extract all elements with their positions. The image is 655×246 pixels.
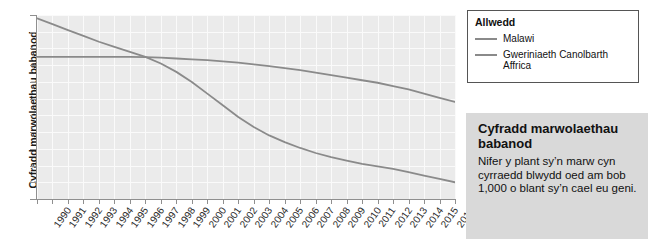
x-tick-mark bbox=[207, 199, 208, 204]
y-tick-mark bbox=[30, 32, 36, 33]
x-tick-mark bbox=[99, 199, 100, 204]
x-tick-mark bbox=[130, 199, 131, 204]
x-tick-mark bbox=[362, 199, 363, 204]
legend-line-swatch-icon bbox=[475, 54, 497, 56]
x-tick-mark bbox=[409, 199, 410, 204]
x-tick-mark bbox=[52, 199, 53, 204]
definition-body: Nifer y plant sy’n marw cyn cyrraedd blw… bbox=[478, 155, 638, 196]
line-chart: Cyfradd marwolaethau babanod 30405060708… bbox=[0, 0, 460, 246]
x-tick-mark bbox=[285, 199, 286, 204]
x-tick-mark bbox=[254, 199, 255, 204]
y-tick-mark bbox=[30, 65, 36, 66]
x-tick-mark bbox=[331, 199, 332, 204]
legend-label: Malawi bbox=[503, 33, 534, 45]
x-tick-mark bbox=[393, 199, 394, 204]
x-tick-mark bbox=[440, 199, 441, 204]
x-tick-mark bbox=[114, 199, 115, 204]
x-tick-mark bbox=[455, 199, 456, 204]
y-tick-mark bbox=[30, 182, 36, 183]
x-tick-mark bbox=[161, 199, 162, 204]
x-tick-mark bbox=[83, 199, 84, 204]
legend-box: Allwedd Malawi Gweriniaeth Canolbarth Af… bbox=[467, 10, 639, 83]
y-tick-mark bbox=[30, 48, 36, 49]
y-tick-mark bbox=[30, 132, 36, 133]
chart-figure: Cyfradd marwolaethau babanod 30405060708… bbox=[0, 0, 655, 246]
x-tick-mark bbox=[316, 199, 317, 204]
x-tick-mark bbox=[68, 199, 69, 204]
legend-item-car: Gweriniaeth Canolbarth Affrica bbox=[475, 49, 631, 72]
y-tick-mark bbox=[30, 115, 36, 116]
x-tick-mark bbox=[238, 199, 239, 204]
x-tick-mark bbox=[269, 199, 270, 204]
gridline-vertical bbox=[455, 15, 456, 199]
y-tick-mark bbox=[30, 82, 36, 83]
legend-title: Allwedd bbox=[475, 16, 631, 28]
legend-line-swatch-icon bbox=[475, 38, 497, 40]
x-tick-mark bbox=[424, 199, 425, 204]
y-tick-mark bbox=[30, 149, 36, 150]
series-line bbox=[37, 57, 455, 102]
y-tick-mark bbox=[30, 166, 36, 167]
legend-label: Gweriniaeth Canolbarth Affrica bbox=[503, 49, 631, 72]
series-line bbox=[37, 18, 455, 182]
x-tick-mark bbox=[223, 199, 224, 204]
definition-box: Cyfradd marwolaethau babanod Nifer y pla… bbox=[466, 113, 648, 239]
x-tick-mark bbox=[145, 199, 146, 204]
x-tick-mark bbox=[378, 199, 379, 204]
x-tick-mark bbox=[192, 199, 193, 204]
y-tick-mark bbox=[30, 99, 36, 100]
x-tick-mark bbox=[347, 199, 348, 204]
x-tick-mark bbox=[300, 199, 301, 204]
definition-title: Cyfradd marwolaethau babanod bbox=[478, 121, 638, 151]
legend-item-malawi: Malawi bbox=[475, 33, 631, 45]
y-tick-mark bbox=[30, 199, 36, 200]
x-tick-mark bbox=[37, 199, 38, 204]
series-lines bbox=[37, 15, 455, 199]
x-tick-mark bbox=[176, 199, 177, 204]
y-tick-mark bbox=[30, 15, 36, 16]
